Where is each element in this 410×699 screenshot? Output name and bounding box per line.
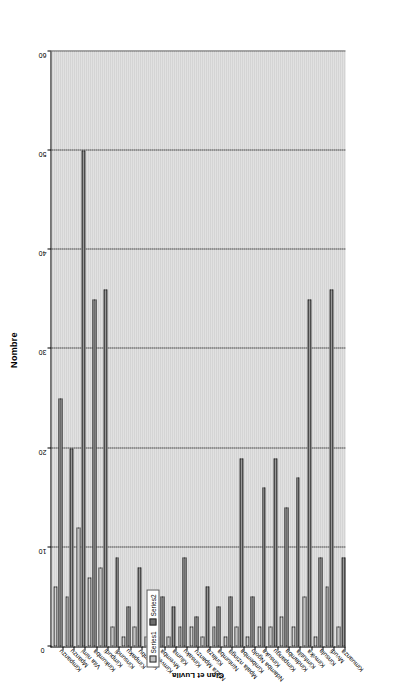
bar — [223, 636, 227, 646]
value-axis-tick-label: 0 — [40, 646, 44, 653]
bar-group: Nintumba — [209, 51, 220, 646]
chart-title: Nombre — [8, 0, 18, 699]
bar-group: Kimuanza — [334, 51, 345, 646]
bar — [239, 458, 243, 646]
value-axis-tick — [47, 546, 51, 547]
bar — [110, 626, 114, 646]
bar — [268, 626, 272, 646]
bar-group: Kiluma — [164, 51, 175, 646]
plot-area: 0102030405060KimpanzuMpanzuVita nimiKink… — [50, 51, 345, 647]
bar — [318, 557, 322, 646]
bar — [182, 557, 186, 646]
bar — [92, 299, 96, 646]
bar — [341, 557, 345, 646]
bar-group: Kimbemba — [232, 51, 243, 646]
bar — [273, 458, 277, 646]
legend-swatch-icon — [149, 618, 156, 625]
bar-group: Kimpangu — [266, 51, 277, 646]
bar — [81, 150, 85, 646]
value-axis-tick — [47, 348, 51, 349]
bar — [245, 636, 249, 646]
bar — [212, 626, 216, 646]
value-axis-tick — [47, 447, 51, 448]
bar — [296, 477, 300, 646]
value-axis-tick — [47, 149, 51, 150]
bar-group: Kinsuka — [255, 51, 266, 646]
bar — [228, 596, 232, 646]
bar — [132, 626, 136, 646]
bar-group: Kinsaku — [175, 51, 186, 646]
chart-canvas: Nombre 0102030405060KimpanzuMpanzuVita n… — [0, 0, 410, 699]
legend-item-series1: Series1 — [149, 631, 156, 662]
bar-group: Kinlaza — [198, 51, 209, 646]
bar-group: Kimpanzu — [51, 51, 62, 646]
bar — [329, 289, 333, 646]
category-axis-title: Clan et Luvila — [50, 670, 345, 679]
bar-group: Kimfutila — [288, 51, 299, 646]
bar — [98, 567, 102, 646]
bar — [250, 596, 254, 646]
bar-group: Mvudi — [322, 51, 333, 646]
bar — [178, 626, 182, 646]
chart-legend: Series1 Series2 — [146, 589, 159, 667]
bar-group: Kimvika — [300, 51, 311, 646]
legend-label: Series2 — [149, 594, 156, 616]
value-axis-tick — [47, 645, 51, 646]
bar-group: Kibumbu — [130, 51, 141, 646]
bar — [257, 626, 261, 646]
bar — [53, 587, 57, 647]
bar-group: Nlaza Mpanzu — [187, 51, 198, 646]
bar — [189, 626, 193, 646]
bar — [166, 636, 170, 646]
bar-group: Mvemba — [153, 51, 164, 646]
bar — [313, 636, 317, 646]
bar — [171, 606, 175, 646]
bar-group: Vita nimi — [74, 51, 85, 646]
bar-group: Mpala nzinga — [221, 51, 232, 646]
bar — [302, 596, 306, 646]
bar — [216, 606, 220, 646]
bar — [160, 596, 164, 646]
bar-group: Ndamba Ngolo — [243, 51, 254, 646]
bar — [103, 289, 107, 646]
bar — [200, 636, 204, 646]
bar-group: Kinsundi — [108, 51, 119, 646]
bar-group: Mpanzu — [62, 51, 73, 646]
bar — [121, 636, 125, 646]
bar-group: Kimvemba — [141, 51, 152, 646]
bar-group: Kindamba — [277, 51, 288, 646]
bar — [205, 587, 209, 647]
bar — [137, 567, 141, 646]
bar — [76, 527, 80, 646]
legend-item-series2: Series2 — [149, 594, 156, 625]
value-axis-tick-label: 60 — [38, 51, 46, 58]
bar — [279, 616, 283, 646]
bar — [126, 606, 130, 646]
bar — [65, 596, 69, 646]
bar — [307, 299, 311, 646]
bar — [262, 487, 266, 646]
bar — [194, 616, 198, 646]
value-axis-tick-label: 20 — [38, 448, 46, 455]
bar — [87, 577, 91, 646]
legend-label: Series1 — [149, 631, 156, 653]
value-axis-tick — [47, 50, 51, 51]
bar — [291, 626, 295, 646]
bar — [234, 626, 238, 646]
bar — [115, 557, 119, 646]
value-axis-tick — [47, 248, 51, 249]
bar-group: Kinkumba — [85, 51, 96, 646]
legend-swatch-icon — [149, 655, 156, 662]
bar — [325, 587, 329, 647]
bar — [284, 507, 288, 646]
value-axis-tick-label: 40 — [38, 249, 46, 256]
value-axis-tick-label: 30 — [38, 349, 46, 356]
value-axis-tick-label: 50 — [38, 150, 46, 157]
bar-group: Kimpaku — [119, 51, 130, 646]
bar-group: Kinsula — [311, 51, 322, 646]
value-axis-tick-label: 10 — [38, 547, 46, 554]
bar — [336, 626, 340, 646]
bar-group: Kimpudi — [96, 51, 107, 646]
bar — [58, 398, 62, 646]
bar — [69, 448, 73, 646]
